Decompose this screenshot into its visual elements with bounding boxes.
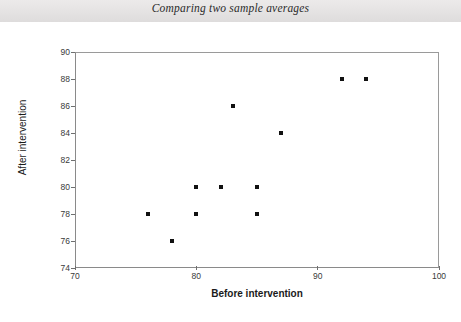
data-point xyxy=(255,212,259,216)
x-tick-mark xyxy=(317,266,318,270)
x-tick-label: 80 xyxy=(181,271,211,281)
data-point xyxy=(255,185,259,189)
y-tick-label: 90 xyxy=(44,48,70,56)
x-tick-label: 90 xyxy=(303,271,333,281)
axes-frame xyxy=(75,52,439,268)
y-tick-label: 86 xyxy=(44,102,70,110)
y-tick-label: 88 xyxy=(44,75,70,83)
x-tick-label: 100 xyxy=(424,271,454,281)
y-tick-mark xyxy=(71,187,75,188)
x-tick-mark xyxy=(439,266,440,270)
y-tick-label: 84 xyxy=(44,129,70,137)
y-tick-mark xyxy=(71,133,75,134)
y-tick-label: 80 xyxy=(44,183,70,191)
x-tick-mark xyxy=(196,266,197,270)
y-tick-label: 76 xyxy=(44,237,70,245)
y-tick-mark xyxy=(71,160,75,161)
data-point xyxy=(364,77,368,81)
data-point xyxy=(219,185,223,189)
y-tick-mark xyxy=(71,241,75,242)
x-axis-label: Before intervention xyxy=(75,288,439,299)
data-point xyxy=(279,131,283,135)
x-tick-mark xyxy=(75,266,76,270)
data-point xyxy=(340,77,344,81)
y-tick-label: 82 xyxy=(44,156,70,164)
y-tick-mark xyxy=(71,52,75,53)
data-point xyxy=(231,104,235,108)
page-title: Comparing two sample averages xyxy=(0,2,461,14)
data-point xyxy=(194,185,198,189)
data-point xyxy=(146,212,150,216)
y-tick-mark xyxy=(71,214,75,215)
y-tick-mark xyxy=(71,79,75,80)
x-tick-label: 70 xyxy=(60,271,90,281)
data-point xyxy=(194,212,198,216)
data-point xyxy=(170,239,174,243)
scatter-plot: 747678808284868890 708090100 After inter… xyxy=(0,22,461,322)
y-axis-label: After intervention xyxy=(17,78,28,198)
y-tick-mark xyxy=(71,106,75,107)
y-tick-label: 78 xyxy=(44,210,70,218)
